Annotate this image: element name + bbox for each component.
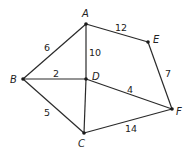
- graph-diagram: 61012254714 ABCDEF: [0, 0, 196, 154]
- node-label-a: A: [81, 8, 89, 19]
- edge-weight-label: 10: [89, 47, 101, 58]
- edge-weight-label: 12: [115, 22, 127, 33]
- node-label-d: D: [92, 71, 100, 82]
- node-label-b: B: [10, 74, 17, 85]
- edge-weight-label: 4: [127, 84, 133, 95]
- node-e-dot-icon: [146, 40, 150, 44]
- node-b-dot-icon: [21, 77, 25, 81]
- node-label-c: C: [78, 138, 85, 149]
- node-f-dot-icon: [170, 107, 174, 111]
- node-label-e: E: [153, 34, 160, 45]
- edge-weight-label: 2: [53, 68, 59, 79]
- edge-d-c: [84, 79, 86, 133]
- node-d-dot-icon: [84, 77, 88, 81]
- node-c-dot-icon: [82, 131, 86, 135]
- edge-weight-label: 7: [165, 68, 171, 79]
- edge-weight-label: 6: [44, 42, 50, 53]
- edge-weight-label: 5: [44, 107, 50, 118]
- edge-weight-label: 14: [125, 123, 137, 134]
- edge-b-c: [23, 79, 84, 133]
- node-label-f: F: [176, 106, 182, 117]
- node-a-dot-icon: [84, 22, 88, 26]
